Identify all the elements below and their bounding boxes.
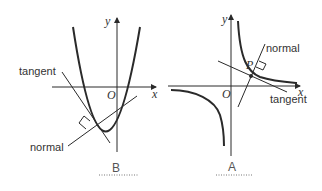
normal-label: normal (266, 42, 300, 54)
x-axis-label: x (297, 85, 304, 99)
point-p (249, 74, 253, 78)
origin-label: O (107, 88, 116, 102)
point-p-label: P (245, 58, 254, 72)
normal-line (68, 96, 137, 146)
right-figure: P normal tangent O x y A (168, 12, 307, 175)
parabola-curve (73, 27, 140, 132)
y-axis-label: y (221, 12, 228, 26)
right-angle-marker (79, 116, 90, 129)
left-figure: tangent normal O x y B (19, 14, 158, 175)
origin-label: O (222, 87, 231, 101)
tangent-label: tangent (19, 65, 56, 77)
normal-label: normal (30, 141, 64, 153)
x-axis-label: x (151, 87, 158, 101)
y-axis-label: y (104, 14, 111, 28)
caption-a: A (228, 160, 236, 174)
caption-b: B (112, 161, 120, 175)
hyperbola-branch-lower (171, 90, 224, 146)
diagram-canvas: tangent normal O x y B P normal tangent … (0, 0, 322, 191)
